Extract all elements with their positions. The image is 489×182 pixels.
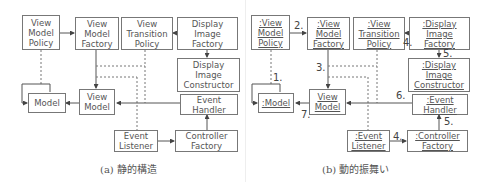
dynamic-behavior-panel: :View Model Policy :View Model Factory :… (0, 0, 489, 182)
event-listener-instance-box: :Event Listener (347, 130, 390, 152)
step-label-1: 1. (273, 73, 283, 83)
model-instance-box: :Model (258, 93, 294, 113)
step-label-2: 2. (294, 21, 304, 31)
event-handler-instance-box: :Event Handler (412, 94, 468, 115)
view-model-instance-box: View Model (309, 89, 346, 115)
view-model-factory-instance-box: :View Model Factory (307, 17, 350, 50)
step-label-4-top: 4. (403, 38, 413, 48)
step-label-7: 7. (301, 110, 311, 120)
controller-factory-instance-box: :Controller Factory (407, 130, 468, 152)
dynamic-behavior-caption: (b) 動的振舞い (322, 161, 389, 176)
step-label-4-bottom: 4. (393, 132, 403, 142)
step-label-6: 6. (396, 91, 406, 101)
display-image-factory-instance-box: :Display Image Factory (409, 17, 470, 50)
display-image-constructor-instance-box: :Display Image Constructor (408, 58, 470, 92)
step-label-3: 3. (316, 63, 326, 73)
view-transition-policy-instance-box: :View Transition Policy (353, 17, 405, 50)
view-model-policy-instance-box: :View Model Policy (251, 15, 290, 50)
step-label-5-bottom: 5. (444, 117, 454, 127)
step-label-5-top: 5. (443, 49, 453, 59)
